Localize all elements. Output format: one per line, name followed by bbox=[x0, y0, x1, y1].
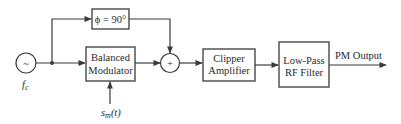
balanced-modulator-block: Balanced Modulator bbox=[86, 47, 135, 81]
modulating-signal-label: sm(t) bbox=[101, 107, 121, 120]
low-pass-filter-block: Low-Pass RF Filter bbox=[279, 42, 329, 87]
phase-shifter-block: ϕ = 90° bbox=[92, 9, 129, 29]
filter-label-2: RF Filter bbox=[285, 67, 324, 78]
oscillator-source: ~ fc bbox=[16, 53, 36, 92]
plus-icon: + bbox=[167, 58, 173, 69]
pm-output-label: PM Output bbox=[335, 50, 382, 61]
clipper-label-1: Clipper bbox=[213, 53, 245, 64]
balanced-modulator-label-2: Modulator bbox=[88, 65, 133, 76]
balanced-modulator-label-1: Balanced bbox=[91, 52, 131, 63]
clipper-amplifier-block: Clipper Amplifier bbox=[203, 49, 255, 81]
carrier-to-phase-line bbox=[52, 19, 91, 63]
summer-junction: + bbox=[161, 54, 180, 73]
block-diagram: ~ fc ϕ = 90° Balanced Modulator sm(t) + … bbox=[0, 0, 401, 124]
source-frequency-label: fc bbox=[22, 79, 29, 92]
sine-wave-icon: ~ bbox=[23, 58, 29, 69]
clipper-label-2: Amplifier bbox=[208, 65, 250, 76]
phase-shifter-label: ϕ = 90° bbox=[95, 14, 126, 25]
filter-label-1: Low-Pass bbox=[283, 55, 324, 66]
